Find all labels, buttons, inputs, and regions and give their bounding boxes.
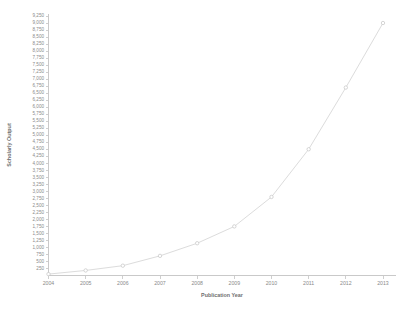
x-axis-tick-label: 2011 (303, 280, 314, 286)
data-point-2006 (121, 264, 124, 267)
x-axis-tick-label: 2009 (229, 280, 241, 286)
data-point-2005 (84, 269, 87, 272)
data-point-2012 (344, 86, 347, 89)
y-axis-tick-label: 250 (36, 266, 44, 271)
y-axis-tick-label: 2,000 (33, 217, 45, 222)
y-axis-tick-label: 2,500 (33, 203, 45, 208)
y-axis-tick-label: 9,250 (33, 13, 45, 18)
data-point-2008 (195, 242, 198, 245)
y-axis-tick-label: 7,000 (33, 76, 45, 81)
y-axis-tick-label: 7,750 (33, 55, 45, 60)
line-chart: 9,2509,0008,7508,5008,2508,0007,7507,500… (0, 0, 401, 310)
y-axis-tick-label: 6,500 (33, 90, 45, 95)
y-axis-tick-label: 4,000 (33, 161, 45, 166)
y-axis-tick-label: 1,750 (33, 224, 45, 229)
data-point-2009 (233, 225, 236, 228)
y-axis-tick-label: 5,750 (33, 111, 45, 116)
y-axis-tick-label: 3,500 (33, 175, 45, 180)
data-point-2007 (158, 254, 161, 257)
y-axis-tick-label: 3,750 (33, 168, 45, 173)
x-axis-tick-label: 2007 (154, 280, 166, 286)
data-line-scholarly-output (49, 23, 384, 274)
y-axis-tick-label: 7,250 (33, 69, 45, 74)
x-axis-tick-label: 2006 (117, 280, 129, 286)
y-axis-tick-label: 1,500 (33, 231, 45, 236)
x-axis-tick-labels: 2004200520062007200820092010201120122013 (43, 280, 389, 286)
y-axis-tick-label: 500 (36, 259, 44, 264)
y-axis-tick-label: 1,000 (33, 245, 45, 250)
y-axis-tick-label: 8,750 (33, 27, 45, 32)
y-axis-tick-label: 4,750 (33, 139, 45, 144)
y-axis-tick-label: 1,250 (33, 238, 45, 243)
data-point-markers (47, 21, 385, 275)
data-point-2004 (47, 272, 50, 275)
y-axis-tick-label: 7,500 (33, 62, 45, 67)
x-axis-tick-label: 2008 (191, 280, 203, 286)
y-axis-tick-label: 5,000 (33, 132, 45, 137)
chart-canvas: 9,2509,0008,7508,5008,2508,0007,7507,500… (0, 0, 401, 310)
data-point-2010 (270, 195, 273, 198)
data-point-2011 (307, 148, 310, 151)
y-axis-tick-label: 9,000 (33, 20, 45, 25)
y-axis-tick-labels: 9,2509,0008,7508,5008,2508,0007,7507,500… (33, 13, 45, 270)
y-axis-tick-label: 5,250 (33, 125, 45, 130)
y-axis-tick-label: 2,250 (33, 210, 45, 215)
y-axis-tick-label: 6,000 (33, 104, 45, 109)
y-axis-tick-label: 4,250 (33, 153, 45, 158)
y-axis-tick-label: 6,250 (33, 97, 45, 102)
y-axis-tick-label: 2,750 (33, 196, 45, 201)
y-axis-tick-label: 750 (36, 252, 44, 257)
x-axis-tick-label: 2013 (377, 280, 389, 286)
x-axis-tick-label: 2010 (266, 280, 278, 286)
y-axis-tick-label: 6,750 (33, 83, 45, 88)
y-axis-tick-label: 8,250 (33, 41, 45, 46)
y-axis-title: Scholarly Output (6, 123, 12, 167)
y-axis-tick-label: 8,000 (33, 48, 45, 53)
x-axis-title: Publication Year (201, 292, 244, 298)
y-axis-tick-label: 5,500 (33, 118, 45, 123)
y-axis-tick-label: 3,000 (33, 189, 45, 194)
x-axis-tick-label: 2012 (340, 280, 352, 286)
x-axis-tick-label: 2005 (80, 280, 92, 286)
data-point-2013 (381, 21, 384, 24)
x-axis-tick-label: 2004 (43, 280, 55, 286)
y-axis-tick-label: 3,250 (33, 182, 45, 187)
y-axis-tick-label: 8,500 (33, 34, 45, 39)
y-axis-tick-label: 4,500 (33, 146, 45, 151)
